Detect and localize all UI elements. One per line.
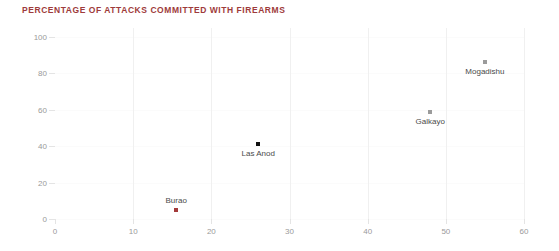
x-tick-mark — [524, 219, 525, 224]
x-gridline — [290, 28, 291, 219]
x-tick-label: 50 — [441, 227, 450, 236]
x-gridline — [446, 28, 447, 219]
data-point[interactable] — [483, 60, 487, 64]
chart-container: PERCENTAGE OF ATTACKS COMMITTED WITH FIR… — [0, 0, 559, 251]
y-tick-label: 0 — [43, 215, 47, 224]
y-tick-label: 80 — [38, 69, 47, 78]
y-tick-label: 40 — [38, 142, 47, 151]
x-tick-mark — [368, 219, 369, 224]
x-gridline — [133, 28, 134, 219]
data-point[interactable] — [174, 208, 178, 212]
x-tick-label: 10 — [129, 227, 138, 236]
y-tick-mark — [49, 183, 55, 184]
data-point[interactable] — [428, 110, 432, 114]
chart-title: PERCENTAGE OF ATTACKS COMMITTED WITH FIR… — [22, 5, 285, 15]
x-tick-mark — [211, 219, 212, 224]
x-tick-mark — [55, 219, 56, 224]
data-point-label: Burao — [165, 196, 186, 205]
plot-area: 0204060801000102030405060BuraoLas AnodGa… — [55, 37, 524, 219]
x-tick-label: 30 — [285, 227, 294, 236]
y-tick-mark — [49, 73, 55, 74]
x-gridline — [211, 28, 212, 219]
y-tick-mark — [49, 146, 55, 147]
y-tick-mark — [49, 110, 55, 111]
x-gridline — [524, 28, 525, 219]
y-tick-mark — [49, 37, 55, 38]
x-tick-label: 0 — [53, 227, 57, 236]
data-point-label: Mogadishu — [465, 67, 504, 76]
x-tick-mark — [290, 219, 291, 224]
x-tick-label: 60 — [520, 227, 529, 236]
y-tick-label: 100 — [34, 33, 47, 42]
x-tick-mark — [446, 219, 447, 224]
data-point-label: Galkayo — [416, 117, 445, 126]
x-tick-mark — [133, 219, 134, 224]
y-tick-label: 60 — [38, 105, 47, 114]
data-point[interactable] — [256, 142, 260, 146]
data-point-label: Las Anod — [242, 149, 275, 158]
y-tick-label: 20 — [38, 178, 47, 187]
x-gridline — [368, 28, 369, 219]
x-tick-label: 40 — [363, 227, 372, 236]
x-tick-label: 20 — [207, 227, 216, 236]
